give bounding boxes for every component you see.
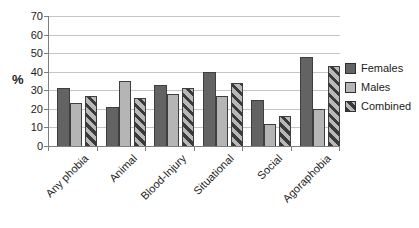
y-axis-tick-label-50: 50 — [15, 47, 43, 59]
y-axis-tick-30 — [44, 90, 48, 91]
y-axis-tick-label-10: 10 — [15, 121, 43, 133]
bar-combined-social — [279, 116, 291, 146]
legend: Females Males Combined — [345, 62, 411, 119]
legend-label-females: Females — [361, 62, 403, 74]
y-axis-tick-60 — [44, 35, 48, 36]
gridline-40 — [49, 72, 340, 73]
y-axis-tick-50 — [44, 53, 48, 54]
y-axis-tick-70 — [44, 16, 48, 17]
bar-combined-agoraphobia — [328, 66, 340, 146]
gridline-50 — [49, 53, 340, 54]
bar-females-agoraphobia — [300, 57, 313, 146]
y-axis-tick-label-70: 70 — [15, 10, 43, 22]
x-axis-tick-5 — [291, 147, 292, 151]
gridline-60 — [49, 35, 340, 36]
x-axis-category-label-situational: Situational — [191, 152, 236, 197]
bar-combined-situational — [231, 83, 243, 146]
bar-males-blood-injury — [167, 94, 179, 146]
phobia-prevalence-bar-chart: % Females Males Combined 010203040506070… — [0, 0, 419, 228]
x-axis-category-label-animal: Animal — [107, 152, 139, 184]
bar-combined-animal — [134, 98, 146, 146]
gridline-70 — [49, 16, 340, 17]
y-axis-tick-label-0: 0 — [15, 140, 43, 152]
x-axis-tick-4 — [242, 147, 243, 151]
legend-item-combined: Combined — [345, 100, 411, 112]
y-axis-tick-20 — [44, 109, 48, 110]
x-axis-tick-6 — [339, 147, 340, 151]
legend-swatch-females — [345, 63, 356, 74]
y-axis-tick-label-40: 40 — [15, 66, 43, 78]
x-axis-tick-0 — [48, 147, 49, 151]
y-axis-tick-40 — [44, 72, 48, 73]
x-axis-tick-3 — [194, 147, 195, 151]
legend-item-females: Females — [345, 62, 411, 74]
x-axis-tick-1 — [97, 147, 98, 151]
bar-males-animal — [119, 81, 131, 146]
legend-swatch-combined — [345, 101, 356, 112]
bar-combined-any-phobia — [85, 96, 97, 146]
bar-combined-blood-injury — [182, 88, 194, 146]
y-axis-tick-label-20: 20 — [15, 103, 43, 115]
bar-females-social — [251, 100, 264, 146]
plot-area — [48, 16, 340, 147]
y-axis-tick-10 — [44, 127, 48, 128]
bar-females-blood-injury — [154, 85, 167, 146]
gridline-30 — [49, 90, 340, 91]
bar-females-situational — [203, 72, 216, 146]
bar-females-animal — [106, 107, 119, 146]
x-axis-category-label-agoraphobia: Agoraphobia — [281, 152, 334, 205]
x-axis-category-label-blood-injury: Blood-Injury — [138, 152, 188, 202]
legend-swatch-males — [345, 82, 356, 93]
x-axis-category-label-any-phobia: Any phobia — [43, 152, 90, 199]
y-axis-tick-label-30: 30 — [15, 84, 43, 96]
bar-males-any-phobia — [70, 103, 82, 146]
legend-label-males: Males — [361, 81, 390, 93]
bar-males-social — [264, 124, 276, 146]
legend-item-males: Males — [345, 81, 411, 93]
bar-males-situational — [216, 96, 228, 146]
x-axis-tick-2 — [145, 147, 146, 151]
bar-females-any-phobia — [57, 88, 70, 146]
bar-males-agoraphobia — [313, 109, 325, 146]
legend-label-combined: Combined — [361, 100, 411, 112]
x-axis-category-label-social: Social — [255, 152, 285, 182]
y-axis-tick-label-60: 60 — [15, 29, 43, 41]
